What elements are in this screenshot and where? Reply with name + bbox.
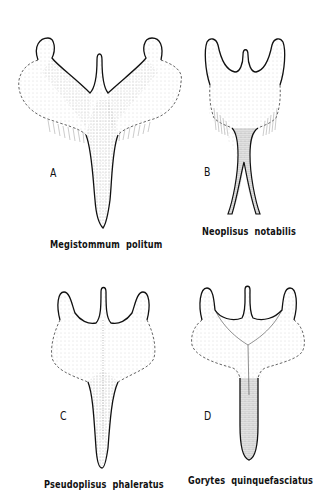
panel-letter-c: C xyxy=(60,408,67,423)
caption-b: Neoplisus notabilis xyxy=(202,225,296,237)
caption-a: Megistommum politum xyxy=(50,238,162,250)
caption-c: Pseudoplisus phaleratus xyxy=(44,478,164,490)
drawing-c xyxy=(52,288,155,469)
panel-letter-b: B xyxy=(204,164,210,179)
drawing-a xyxy=(19,38,182,228)
panel-letter-d: D xyxy=(204,408,211,423)
figure-plate: A B C D Megistommum politum Neoplisus no… xyxy=(0,0,323,497)
drawing-b xyxy=(205,39,284,214)
caption-d: Gorytes quinquefasciatus xyxy=(188,474,313,486)
panel-letter-a: A xyxy=(50,165,56,180)
drawing-d xyxy=(192,286,305,460)
